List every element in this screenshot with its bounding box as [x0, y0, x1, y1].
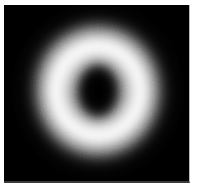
- image-canvas: [4, 5, 189, 181]
- image-figure: Annulus intensity image Blurred bright r…: [0, 0, 204, 191]
- annulus-dark-core: [74, 60, 122, 122]
- image-plate-frame: [4, 5, 190, 183]
